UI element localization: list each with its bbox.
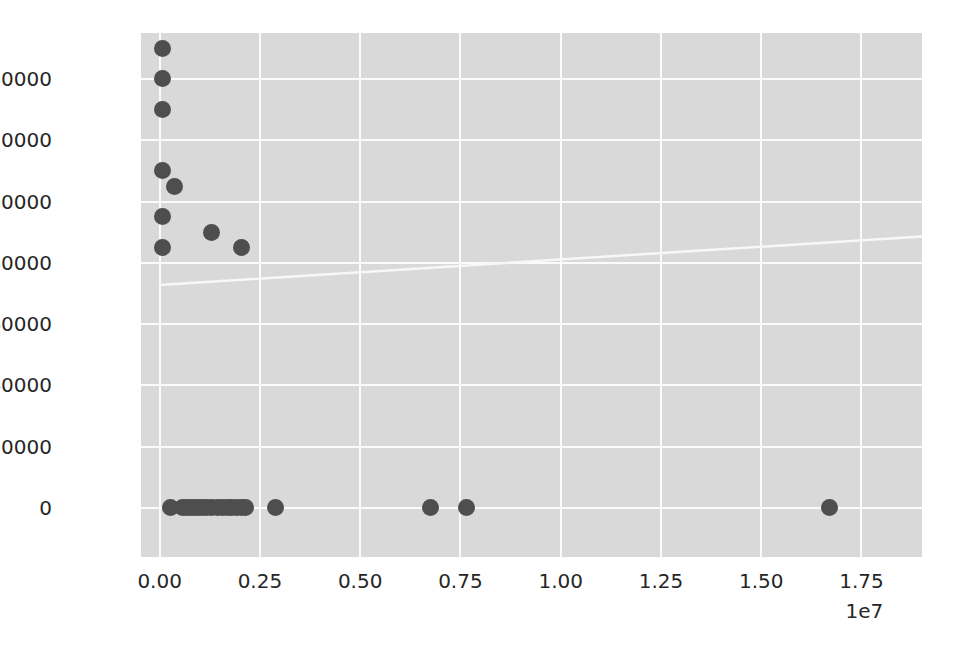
y-axis-tick-label: 140000 xyxy=(0,69,52,89)
data-point xyxy=(166,178,183,195)
y-axis-tick-label: 40000 xyxy=(0,375,52,395)
data-point xyxy=(154,70,171,87)
data-point xyxy=(154,101,171,118)
data-point xyxy=(154,208,171,225)
plot-area xyxy=(141,33,922,557)
trendline xyxy=(141,33,922,557)
y-axis-tick-label: 0 xyxy=(0,498,52,518)
data-point xyxy=(154,40,171,57)
y-axis-tick-label: 120000 xyxy=(0,130,52,150)
scatter-plot-figure: 020000400006000080000100000120000140000 … xyxy=(0,0,976,672)
y-axis-tick-label: 60000 xyxy=(0,314,52,334)
data-point xyxy=(203,224,220,241)
y-axis-tick-label: 100000 xyxy=(0,192,52,212)
x-axis-tick-label: 1.75 xyxy=(791,571,931,591)
y-axis-tick-label: 20000 xyxy=(0,437,52,457)
data-point xyxy=(154,239,171,256)
y-axis-tick-label: 80000 xyxy=(0,253,52,273)
data-point xyxy=(154,162,171,179)
x-axis-offset-label: 1e7 xyxy=(845,601,883,621)
